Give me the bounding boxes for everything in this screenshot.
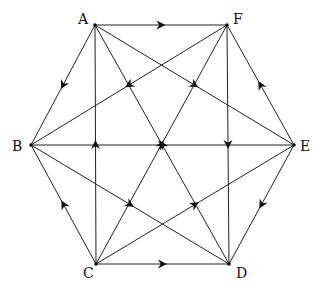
node-label-B: B [12, 139, 22, 153]
node-F [225, 23, 229, 27]
arrowhead-icon [124, 198, 134, 206]
edges-group [31, 21, 294, 269]
node-A [93, 23, 97, 27]
directed-graph [0, 0, 320, 286]
node-label-A: A [78, 12, 88, 26]
node-E [292, 143, 296, 147]
node-C [94, 262, 98, 266]
arrowhead-icon [258, 81, 266, 91]
node-B [29, 143, 33, 147]
node-D [227, 262, 231, 266]
node-label-C: C [83, 266, 94, 280]
arrowhead-icon [160, 141, 168, 151]
arrowhead-icon [125, 79, 135, 88]
arrowhead-icon [189, 202, 199, 210]
node-label-F: F [233, 12, 243, 26]
node-label-E: E [300, 139, 310, 153]
node-label-D: D [236, 266, 247, 280]
